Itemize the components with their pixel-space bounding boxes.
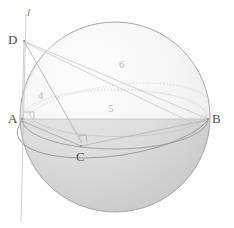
point-dot-d [23,40,25,42]
measure-label-5: 5 [108,103,114,114]
point-dot-b [207,118,209,120]
measure-label-6: 6 [119,59,125,70]
point-label-a: A [8,112,17,125]
point-dot-a [21,118,23,120]
measure-label-4: 4 [38,90,44,101]
point-label-b: B [212,112,221,125]
line-label-l: l [27,7,30,18]
point-label-d: D [8,33,17,46]
point-dot-c [80,145,82,147]
geometry-figure: l D A B C 4 5 6 [0,0,234,228]
point-label-c: C [76,150,85,163]
figure-canvas [0,0,234,228]
